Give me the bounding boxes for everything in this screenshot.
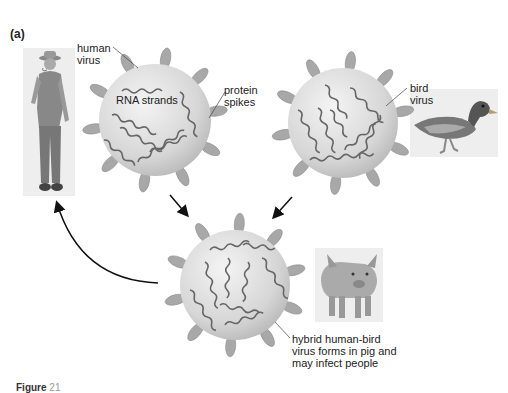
label-line: may infect people — [292, 357, 397, 369]
label-line: hybrid human-bird — [292, 333, 397, 345]
human-virus — [82, 47, 228, 193]
label-rna-strands: RNA strands — [116, 94, 178, 106]
figure-caption: Figure 21 — [16, 382, 60, 393]
bird-virus — [271, 51, 414, 195]
arrow-bird-to-pig — [274, 197, 292, 217]
label-line: virus — [77, 54, 111, 66]
arrow-pig-to-human — [57, 203, 158, 283]
label-protein-spikes: protein spikes — [224, 84, 258, 108]
label-human-virus: human virus — [77, 42, 111, 66]
label-line: spikes — [224, 96, 258, 108]
label-hybrid: hybrid human-bird virus forms in pig and… — [292, 333, 397, 369]
arrow-human-to-pig — [170, 195, 187, 215]
label-line: human — [77, 42, 111, 54]
label-line: protein — [224, 84, 258, 96]
caption-bold: Figure — [16, 382, 47, 393]
hybrid-virus — [164, 213, 306, 357]
leader-hybrid — [275, 322, 290, 338]
virus-envelope — [99, 64, 211, 176]
caption-rest: 21 — [47, 382, 61, 393]
label-line: bird — [410, 82, 433, 94]
label-line: virus — [410, 94, 433, 106]
label-bird-virus: bird virus — [410, 82, 433, 106]
label-line: virus forms in pig and — [292, 345, 397, 357]
